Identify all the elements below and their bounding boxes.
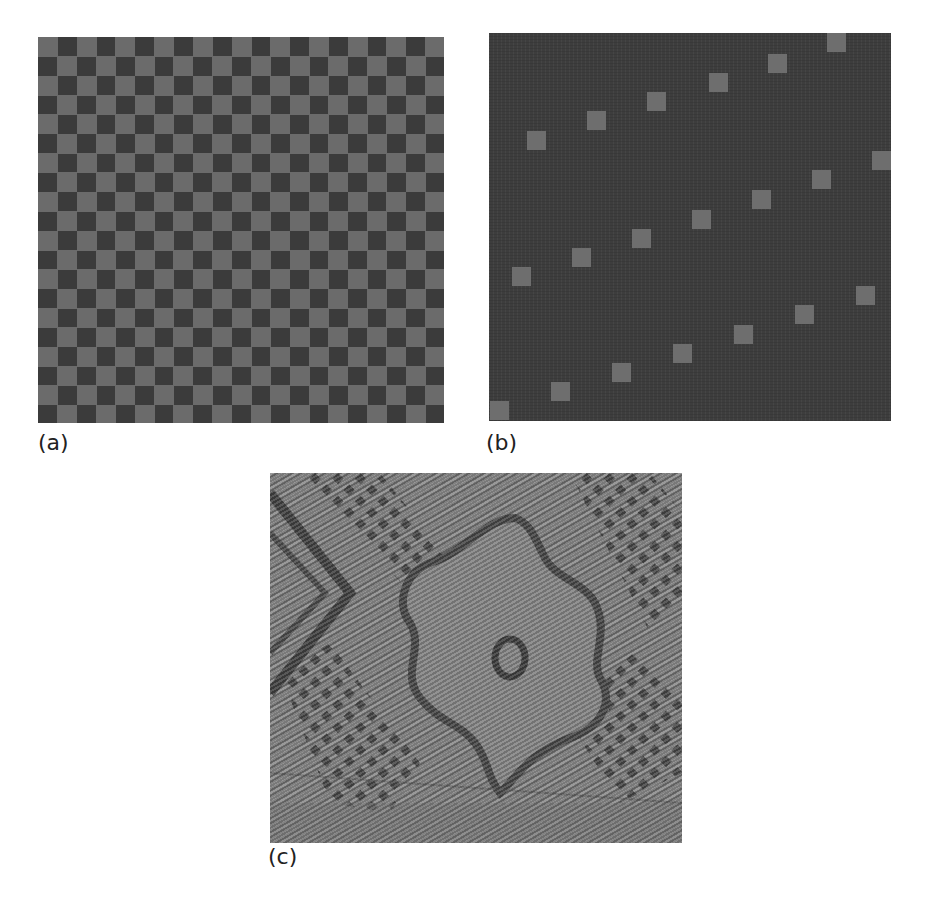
checker-cell [232,114,252,134]
checker-cell [212,366,232,386]
checker-cell [251,134,271,154]
checker-cell [406,250,426,270]
checker-cell [232,231,252,251]
checker-cell [38,269,58,289]
checker-cell [173,211,193,231]
checker-cell [425,76,444,96]
checker-cell [328,134,348,154]
checker-cell [212,289,232,309]
checker-cell [115,114,135,134]
checker-cell [173,327,193,347]
checker-cell [232,76,252,96]
checker-cell [348,192,368,212]
checker-cell [38,76,58,96]
checker-cell [386,385,406,405]
checker-cell [367,134,387,154]
checker-cell [251,172,271,192]
checker-cell [290,405,310,423]
checker-cell [77,114,97,134]
checker-cell [96,327,116,347]
checker-cell [425,308,444,328]
checker-cell [386,76,406,96]
checker-cell [406,95,426,115]
checker-cell [367,250,387,270]
panel-label-b: (b) [486,432,517,454]
checker-cell [367,56,387,76]
checker-cell [348,153,368,173]
checker-cell [154,347,174,367]
checker-cell [328,95,348,115]
checker-cell [232,269,252,289]
checker-cell [115,385,135,405]
checker-cell [57,56,77,76]
checker-cell [367,95,387,115]
checker-cell [309,308,329,328]
checker-cell [135,405,155,423]
checker-cell [193,231,213,251]
checker-cell [406,172,426,192]
checker-cell [173,366,193,386]
checker-cell [38,114,58,134]
checker-cell [193,192,213,212]
checker-cell [367,289,387,309]
sparse-square [647,92,666,111]
sparse-square [692,210,711,229]
checker-cell [309,269,329,289]
checker-cell [115,153,135,173]
checker-cell [193,269,213,289]
checker-cell [212,95,232,115]
checker-cell [270,192,290,212]
checker-cell [135,211,155,231]
checker-cell [232,153,252,173]
checker-cell [309,37,329,57]
checker-cell [290,95,310,115]
checker-cell [135,95,155,115]
checker-cell [290,250,310,270]
checker-cell [212,172,232,192]
checker-cell [96,211,116,231]
checker-cell [193,347,213,367]
checker-cell [173,405,193,423]
checker-cell [386,153,406,173]
checker-cell [232,308,252,328]
checker-cell [77,153,97,173]
checker-cell [328,366,348,386]
checker-cell [290,56,310,76]
checker-cell [173,250,193,270]
checker-cell [348,76,368,96]
checker-cell [115,347,135,367]
checker-cell [96,250,116,270]
checker-cell [96,289,116,309]
checker-cell [212,250,232,270]
checker-cell [154,308,174,328]
checker-cell [38,231,58,251]
sparse-square [812,170,831,189]
checker-cell [309,153,329,173]
checker-cell [57,366,77,386]
sparse-square [572,248,591,267]
checker-cell [367,172,387,192]
checker-cell [57,327,77,347]
checker-cell [96,95,116,115]
checker-cell [135,172,155,192]
checker-cell [348,231,368,251]
checker-cell [270,153,290,173]
checker-cell [96,405,116,423]
checker-cell [193,37,213,57]
checker-cell [38,385,58,405]
checker-cell [270,385,290,405]
checker-cell [425,385,444,405]
checker-cell [328,211,348,231]
checker-cell [193,385,213,405]
checker-cell [290,134,310,154]
sparse-square [795,305,814,324]
sparse-square [709,73,728,92]
checker-cell [309,231,329,251]
checker-cell [328,172,348,192]
sparse-square [768,54,787,73]
checker-cell [193,114,213,134]
sparse-square [551,382,570,401]
checker-cell [135,250,155,270]
checker-cell [232,192,252,212]
checker-cell [425,114,444,134]
